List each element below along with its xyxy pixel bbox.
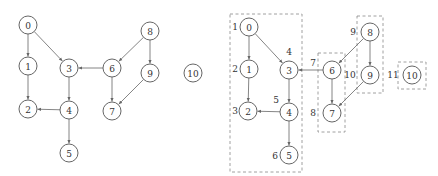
node-label: 3	[286, 66, 292, 76]
left-node-6: 6	[103, 59, 121, 77]
right-nodes: 012345678910	[239, 18, 421, 164]
node-label: 0	[25, 21, 31, 31]
right-node-4: 4	[280, 103, 298, 121]
node-label: 2	[25, 105, 31, 115]
right-node-8: 8	[361, 23, 379, 41]
left-node-3: 3	[60, 59, 78, 77]
left-graph: 012345678910	[19, 16, 202, 162]
left-node-10: 10	[184, 64, 202, 82]
right-edge-1-to-2	[248, 78, 249, 102]
left-edge-8-to-6	[119, 37, 144, 61]
left-edge-9-to-7	[119, 79, 144, 104]
order-label: 3	[232, 106, 238, 116]
left-node-9: 9	[141, 64, 159, 82]
order-label: 10	[344, 70, 356, 80]
node-label: 4	[286, 108, 292, 118]
graph-diagram: 012345678910 012345678910 1234567891011	[0, 0, 438, 176]
order-labels: 1234567891011	[232, 22, 399, 161]
node-label: 2	[245, 107, 251, 117]
right-node-9: 9	[361, 66, 379, 84]
node-label: 5	[286, 151, 292, 161]
left-node-2: 2	[19, 100, 37, 118]
order-label: 1	[232, 22, 238, 32]
node-label: 5	[66, 149, 72, 159]
node-label: 7	[109, 107, 115, 117]
order-label: 11	[387, 70, 398, 80]
order-label: 4	[286, 47, 292, 57]
order-label: 9	[350, 27, 356, 37]
right-edge-4-to-2	[257, 111, 280, 112]
left-node-0: 0	[19, 16, 37, 34]
right-node-5: 5	[280, 146, 298, 164]
left-node-1: 1	[19, 57, 37, 75]
node-label: 6	[329, 66, 335, 76]
left-nodes: 012345678910	[19, 16, 202, 162]
left-edge-4-to-2	[37, 109, 60, 110]
right-edge-9-to-7	[339, 81, 364, 106]
left-node-8: 8	[141, 22, 159, 40]
right-graph-scc: 012345678910 1234567891011	[230, 14, 426, 172]
node-label: 8	[367, 28, 373, 38]
right-node-7: 7	[323, 104, 341, 122]
right-edge-0-to-3	[255, 34, 282, 63]
node-label: 4	[66, 106, 72, 116]
node-label: 10	[187, 69, 199, 79]
node-label: 1	[25, 62, 31, 72]
right-edge-8-to-6	[339, 38, 364, 63]
left-node-5: 5	[60, 144, 78, 162]
node-label: 3	[66, 64, 72, 74]
node-label: 6	[109, 64, 115, 74]
order-label: 5	[273, 95, 279, 105]
node-label: 8	[147, 27, 153, 37]
order-label: 2	[232, 64, 238, 74]
right-edges	[248, 34, 370, 146]
left-node-7: 7	[103, 102, 121, 120]
node-label: 9	[147, 69, 153, 79]
right-node-6: 6	[323, 61, 341, 79]
node-label: 0	[246, 23, 252, 33]
right-node-10: 10	[403, 66, 421, 84]
order-label: 8	[310, 108, 316, 118]
left-edge-0-to-3	[34, 32, 62, 62]
order-label: 7	[310, 58, 316, 68]
right-node-1: 1	[240, 60, 258, 78]
node-label: 7	[329, 109, 335, 119]
left-edges	[28, 32, 150, 144]
order-label: 6	[272, 151, 278, 161]
node-label: 10	[406, 71, 418, 81]
right-node-3: 3	[280, 61, 298, 79]
right-node-0: 0	[240, 18, 258, 36]
left-node-4: 4	[60, 101, 78, 119]
diagram-canvas: 012345678910 012345678910 1234567891011	[0, 0, 438, 176]
node-label: 1	[246, 65, 252, 75]
node-label: 9	[367, 71, 373, 81]
right-node-2: 2	[239, 102, 257, 120]
